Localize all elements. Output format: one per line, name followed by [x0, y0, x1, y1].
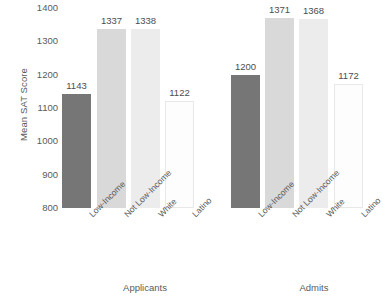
bar-value-label: 1122 — [157, 87, 202, 98]
bar-admits-latino — [334, 84, 363, 208]
y-tick-label-1400: 1400 — [22, 3, 58, 13]
bar-value-label: 1143 — [54, 80, 99, 91]
y-tick-label-1200: 1200 — [22, 70, 58, 80]
bar-applicants-low-income — [62, 94, 91, 208]
y-tick-label-800: 800 — [22, 203, 58, 213]
bar-admits-low-income — [231, 75, 260, 208]
bar-value-label: 1200 — [223, 61, 268, 72]
bar-value-label: 1172 — [326, 70, 371, 81]
bar-value-label: 1368 — [291, 5, 336, 16]
y-tick-label-1100: 1100 — [22, 103, 58, 113]
bar-value-label: 1338 — [123, 15, 168, 26]
y-tick-label-900: 900 — [22, 170, 58, 180]
y-tick-label-1000: 1000 — [22, 136, 58, 146]
y-tick-label-1300: 1300 — [22, 36, 58, 46]
bar-applicants-latino — [165, 101, 194, 208]
group-label-admits: Admits — [264, 282, 364, 293]
group-label-applicants: Applicants — [95, 282, 195, 293]
